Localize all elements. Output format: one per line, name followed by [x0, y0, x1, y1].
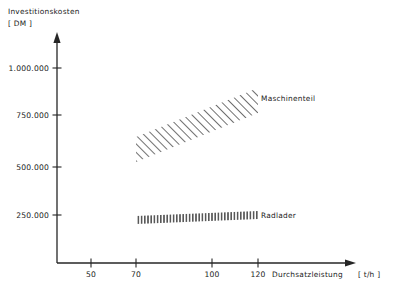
y-axis-title-line2: [ DM ]: [8, 19, 32, 28]
x-tick-label-50: 50: [86, 270, 96, 279]
x-axis-title: Durchsatzleistung: [272, 270, 343, 279]
series-band-radlader: [136, 211, 258, 224]
y-tick-label-250000: 250.000: [16, 211, 49, 220]
x-tick-label-120: 120: [250, 270, 265, 279]
series-label-maschinenteil: Maschinenteil: [261, 94, 315, 103]
investment-cost-chart: 1.000.000 750.000 500.000 250.000 50 70 …: [0, 0, 398, 285]
y-tick-label-1000000: 1.000.000: [9, 64, 49, 73]
x-tick-label-100: 100: [204, 270, 219, 279]
y-axis-arrow-icon: [53, 32, 60, 43]
chart-container: 1.000.000 750.000 500.000 250.000 50 70 …: [0, 0, 398, 285]
x-tick-label-70: 70: [131, 270, 141, 279]
x-axis-arrow-icon: [345, 259, 356, 266]
x-axis-unit: [ t/h ]: [358, 270, 380, 279]
y-axis: [53, 32, 60, 263]
series-label-radlader: Radlader: [261, 211, 297, 220]
y-axis-title-line1: Investitionskosten: [8, 7, 80, 16]
x-axis: [57, 259, 356, 266]
y-tick-label-500000: 500.000: [16, 163, 49, 172]
series-band-maschinenteil: [136, 88, 258, 162]
y-tick-label-750000: 750.000: [16, 111, 49, 120]
